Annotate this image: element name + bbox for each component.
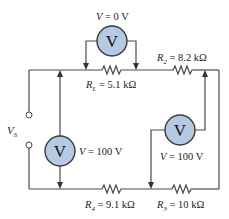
voltmeter-symbol: V — [106, 32, 119, 51]
arrow-down-icon — [148, 182, 154, 189]
circuit-diagram: VS RL = 5.1 kΩ R2 = 8.2 kΩ R4 = 9.1 kΩ R… — [0, 0, 229, 219]
voltmeter-top-reading: V = 0 V — [96, 11, 129, 22]
voltage-source-terminals: VS — [7, 112, 32, 148]
resistor-r2: R2 = 8.2 kΩ — [156, 52, 207, 74]
resistor-rl-label: RL = 5.1 kΩ — [85, 79, 136, 93]
arrow-down-icon — [83, 63, 89, 70]
voltmeter-right-reading: V = 100 V — [160, 151, 204, 162]
voltmeter-right: V V = 100 V — [148, 70, 208, 189]
voltmeter-left-reading: V = 100 V — [79, 146, 123, 157]
arrow-down-icon — [133, 63, 139, 70]
arrow-up-icon — [202, 70, 208, 77]
voltmeter-symbol: V — [174, 121, 187, 140]
resistor-r2-label: R2 = 8.2 kΩ — [156, 52, 207, 66]
source-label: VS — [7, 124, 18, 139]
arrow-down-icon — [57, 182, 63, 189]
voltmeter-symbol: V — [54, 142, 67, 161]
voltmeter-top: V V = 0 V — [83, 11, 139, 70]
terminal-bottom — [26, 142, 32, 148]
terminal-top — [26, 112, 32, 118]
resistor-r3-label: R3 = 10 kΩ — [156, 199, 204, 213]
resistor-r4-label: R4 = 9.1 kΩ — [84, 199, 135, 213]
arrow-up-icon — [57, 70, 63, 77]
